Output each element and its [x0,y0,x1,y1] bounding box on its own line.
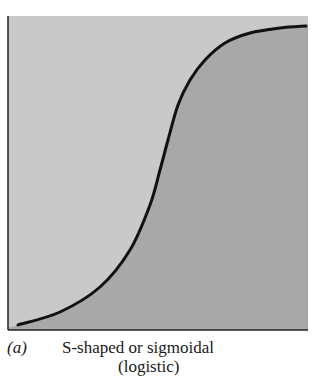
sigmoid-plot [0,0,323,340]
caption-subtitle: (logistic) [118,357,179,376]
sigmoid-figure: (a) S-shaped or sigmoidal (logistic) [0,0,323,384]
caption-label: (a) [7,338,27,357]
caption-title: S-shaped or sigmoidal [62,338,214,357]
